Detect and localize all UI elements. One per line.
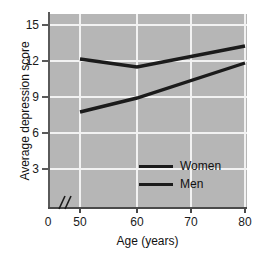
series-line-men xyxy=(80,63,245,112)
legend-swatch-women-icon xyxy=(139,165,173,168)
y-axis-line xyxy=(48,12,50,209)
x-tick-label-70: 70 xyxy=(176,216,206,228)
x-tick-label-80: 80 xyxy=(230,216,257,228)
x-axis-line xyxy=(48,207,247,209)
legend-label-women: Women xyxy=(180,160,221,172)
x-tick-label-60: 60 xyxy=(122,216,152,228)
legend-label-men: Men xyxy=(180,178,203,190)
y-tick-mark-15 xyxy=(42,24,49,26)
x-tick-label-0: 0 xyxy=(33,216,63,228)
y-tick-mark-3 xyxy=(42,168,49,170)
legend-entry-men: Men xyxy=(139,175,243,193)
x-tick-mark-70 xyxy=(190,207,192,213)
legend-swatch-men-icon xyxy=(139,183,173,186)
series-line-women xyxy=(80,46,245,67)
y-tick-mark-12 xyxy=(42,60,49,62)
depression-score-line-chart: 15 12 9 6 3 0 50 60 70 80 Average depres… xyxy=(0,0,257,258)
x-tick-mark-80 xyxy=(244,207,246,213)
y-tick-mark-9 xyxy=(42,96,49,98)
legend: Women Men xyxy=(139,157,243,193)
x-tick-mark-60 xyxy=(136,207,138,213)
legend-entry-women: Women xyxy=(139,157,243,175)
x-tick-label-50: 50 xyxy=(65,216,95,228)
axis-break-icon xyxy=(56,194,76,212)
y-axis-title: Average depression score xyxy=(18,21,32,201)
x-axis-title: Age (years) xyxy=(48,234,247,248)
y-tick-mark-6 xyxy=(42,132,49,134)
x-tick-mark-50 xyxy=(79,207,81,213)
